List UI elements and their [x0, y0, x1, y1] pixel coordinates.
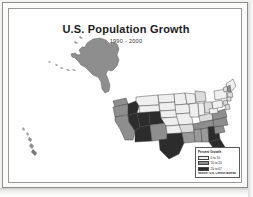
state-new-mexico	[150, 123, 167, 141]
legend-item: 20 to 67	[198, 166, 237, 171]
state-north-dakota	[158, 94, 175, 103]
state-maryland	[225, 104, 230, 110]
state-wisconsin	[185, 93, 196, 104]
legend-source: Source: U.S. Census Bureau	[198, 172, 237, 175]
legend-label-high: 20 to 67	[211, 167, 222, 171]
page-bottom-shadow	[0, 188, 253, 197]
legend-label-mid: 10 to 20	[211, 161, 222, 165]
state-minnesota	[174, 93, 187, 105]
map-document-screenshot: U.S. Population Growth 1990 - 2000	[0, 0, 253, 197]
map-legend: Percent Growth 0 to 10 10 to 20 20 to 67…	[195, 147, 240, 178]
document-page: U.S. Population Growth 1990 - 2000	[8, 8, 242, 183]
state-illinois	[189, 103, 199, 117]
legend-item: 0 to 10	[198, 155, 237, 160]
legend-item: 10 to 20	[198, 161, 237, 166]
state-mississippi	[194, 129, 202, 142]
state-michigan	[195, 91, 206, 102]
state-alabama	[201, 128, 209, 142]
legend-class-list: 0 to 10 10 to 20 20 to 67	[198, 155, 237, 171]
state-south-dakota	[159, 102, 176, 111]
state-nebraska	[160, 110, 178, 118]
state-connecticut	[227, 97, 231, 101]
legend-swatch-low	[198, 156, 209, 160]
legend-swatch-high	[198, 167, 209, 171]
state-louisiana	[182, 132, 195, 143]
page-right-shadow	[248, 2, 253, 197]
state-iowa	[175, 104, 190, 114]
region-alaska	[48, 36, 119, 93]
state-montana	[136, 95, 159, 106]
legend-swatch-mid	[198, 161, 209, 165]
state-indiana	[198, 103, 205, 116]
state-pennsylvania	[212, 100, 223, 109]
legend-title: Percent Growth	[198, 150, 237, 154]
legend-label-low: 0 to 10	[211, 156, 220, 160]
region-hawaii	[22, 127, 37, 156]
